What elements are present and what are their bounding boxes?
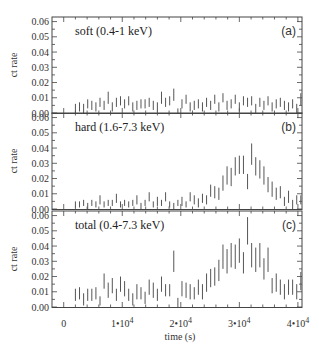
y-tick-label: 0.02 [32,271,50,282]
panel-tag: (b) [281,120,296,134]
y-tick-label: 0.03 [32,256,50,267]
y-tick-label: 0.06 [32,210,50,221]
x-tick-label: 1•104 [111,316,134,329]
x-tick-base: 3•10 [228,318,247,329]
y-tick-label: 0.04 [32,241,50,252]
panel-title: soft (0.4-1 keV) [75,24,152,38]
y-axis-title: ct rate [8,148,19,173]
lightcurve-figure: 0.000.010.020.030.040.050.06ct ratesoft … [0,0,319,357]
y-tick-label: 0.02 [32,77,50,88]
y-tick-label: 0.05 [32,31,50,42]
x-tick-base: 2•10 [170,318,189,329]
panel-tag: (c) [282,218,296,232]
panel-b: 0.000.010.020.030.040.050.06ct ratehard … [8,112,302,214]
error-bars [75,143,300,209]
y-axis-title: ct rate [8,246,19,271]
y-tick-label: 0.05 [32,225,50,236]
x-tick-base: 0 [61,318,66,329]
x-tick-label: 0 [61,318,66,329]
y-tick-label: 0.02 [32,173,50,184]
x-tick-label: 2•104 [170,316,193,329]
y-tick-label: 0.06 [32,16,50,27]
x-tick-labels: 01•1042•1043•1044•104 [61,316,309,329]
y-tick-label: 0.05 [32,127,50,138]
y-tick-label: 0.01 [32,286,50,297]
y-tick-label: 0.00 [32,302,50,313]
error-bars [75,89,300,113]
panel-title: hard (1.6-7.3 keV) [75,120,164,134]
panel-tag: (a) [281,24,296,38]
x-tick-exponent: 4 [188,316,192,325]
panel-a: 0.000.010.020.030.040.050.06ct ratesoft … [8,16,302,118]
x-tick-base: 1•10 [111,318,130,329]
y-tick-label: 0.06 [32,112,50,123]
x-tick-exponent: 4 [130,316,134,325]
x-tick-exponent: 4 [305,316,309,325]
x-tick-base: 4•10 [287,318,306,329]
y-tick-label: 0.04 [32,143,50,154]
y-tick-label: 0.03 [32,158,50,169]
y-tick-label: 0.01 [32,92,50,103]
y-tick-label: 0.04 [32,47,50,58]
x-tick-label: 3•104 [228,316,251,329]
y-tick-label: 0.03 [32,62,50,73]
panel-c: 0.000.010.020.030.040.050.06ct ratetotal… [8,210,302,312]
panel-title: total (0.4-7.3 keV) [75,218,164,232]
y-axis-title: ct rate [8,52,19,77]
x-tick-exponent: 4 [247,316,251,325]
y-tick-label: 0.01 [32,188,50,199]
x-tick-label: 4•104 [287,316,310,329]
x-axis-title: time (s) [165,331,196,343]
